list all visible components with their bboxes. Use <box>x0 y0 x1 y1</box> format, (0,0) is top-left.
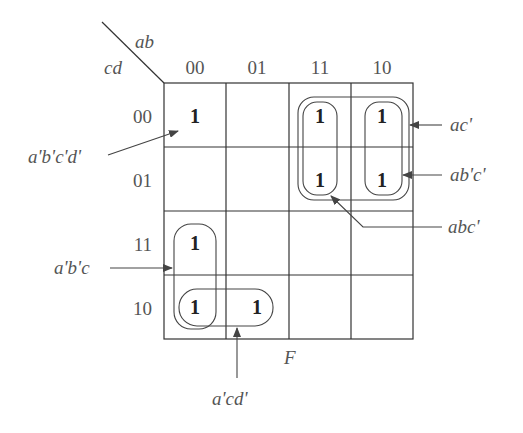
row-header-10: 10 <box>133 298 152 319</box>
column-variable-label: ab <box>135 31 154 52</box>
arrow-a-prime-b-prime-c-prime-d-prime <box>108 131 178 155</box>
term-label-ac-prime: ac' <box>450 114 473 135</box>
cell-r0-c2: 1 <box>315 105 325 127</box>
cell-r2-c0: 1 <box>190 232 200 254</box>
row-header-11: 11 <box>134 234 152 255</box>
column-header-11: 11 <box>311 57 329 78</box>
column-header-00: 00 <box>186 57 205 78</box>
kmap-grid <box>164 83 413 339</box>
term-label-a-prime-b-prime-c: a'b'c <box>54 257 90 278</box>
cell-r3-c0: 1 <box>190 296 200 318</box>
cell-r3-c1: 1 <box>252 296 262 318</box>
term-label-a-prime-b-prime-c-prime-d-prime: a'b'c'd' <box>28 146 82 167</box>
row-variable-label: cd <box>104 57 122 78</box>
cell-r1-c3: 1 <box>377 169 387 191</box>
term-label-abc-prime: abc' <box>448 216 480 237</box>
cell-r0-c3: 1 <box>377 105 387 127</box>
term-label-a-prime-c-d-prime: a'cd' <box>212 388 248 409</box>
row-header-00: 00 <box>133 106 152 127</box>
column-header-01: 01 <box>248 57 267 78</box>
cell-r1-c2: 1 <box>315 169 325 191</box>
term-label-ab-prime-c-prime: ab'c' <box>450 164 486 185</box>
cell-r0-c0: 1 <box>190 105 200 127</box>
row-header-01: 01 <box>133 170 152 191</box>
column-header-10: 10 <box>373 57 392 78</box>
function-name-label: F <box>283 347 296 368</box>
karnaugh-map: ab cd 00 01 11 10 00 01 11 10 1 1 1 1 1 … <box>0 0 523 433</box>
